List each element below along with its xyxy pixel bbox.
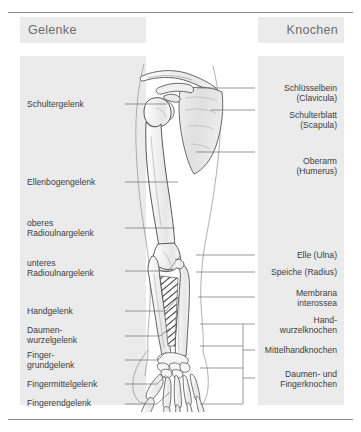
label-oberes-radioulnargelenk: oberes Radioulnargelenk <box>27 218 94 239</box>
label-mittelhandknochen: Mittelhandknochen <box>265 345 337 355</box>
label-fingergrundgelenk: Finger- grundgelenk <box>27 350 74 371</box>
label-schultergelenk: Schultergelenk <box>27 99 84 109</box>
label-oberarm-humerus: Oberarm (Humerus) <box>296 156 337 177</box>
label-schulterblatt-scapula: Schulterblatt (Scapula) <box>289 110 337 131</box>
label-elle-ulna: Elle (Ulna) <box>297 250 337 260</box>
label-unteres-radioulnargelenk: unteres Radioulnargelenk <box>27 258 94 279</box>
label-speiche-radius: Speiche (Radius) <box>271 267 337 277</box>
label-handwurzelknochen: Hand- wurzelknochen <box>280 315 337 336</box>
figure-root: Gelenke Knochen <box>0 0 361 432</box>
label-fingermittelgelenk: Fingermittelgelenk <box>27 379 97 389</box>
label-fingerendgelenk: Fingerendgelenk <box>27 398 91 408</box>
label-ellenbogengelenk: Ellenbogengelenk <box>27 177 95 187</box>
label-daumenwurzelgelenk: Daumen- wurzelgelenk <box>27 325 77 346</box>
label-membrana-interossea: Membrana interossea <box>296 288 337 309</box>
label-handgelenk: Handgelenk <box>27 306 73 316</box>
label-daumen-und-fingerknochen: Daumen- und Fingerknochen <box>280 369 337 390</box>
label-schluesselbein-clavicula: Schlüsselbein (Clavicula) <box>284 83 337 104</box>
